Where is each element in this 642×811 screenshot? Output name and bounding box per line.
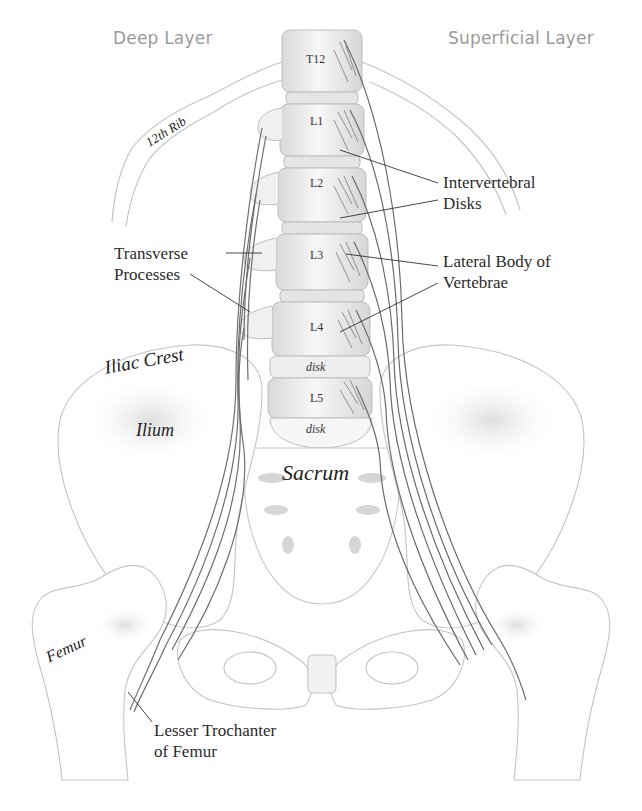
callout-trochanter-line1: Lesser Trochanter [154, 720, 276, 741]
vertebra-label-l5: L5 [310, 391, 323, 406]
femur-right [476, 565, 610, 780]
ilium-label: Ilium [136, 420, 174, 441]
disk-label-lower: disk [306, 422, 325, 437]
callout-lateral-line2: Vertebrae [443, 272, 551, 293]
disk-label-upper: disk [306, 360, 325, 375]
callout-transverse-line1: Transverse [114, 243, 188, 264]
vertebra-label-l4: L4 [310, 320, 323, 335]
anatomy-figure: Deep Layer Superficial Layer T12 L1 L2 L… [0, 0, 642, 811]
callout-transverse-line2: Processes [114, 264, 188, 285]
callout-intervertebral-line1: Intervertebral [443, 172, 536, 193]
callout-intervertebral-line2: Disks [443, 193, 536, 214]
vertebra-label-l1: L1 [310, 114, 323, 129]
pubis [178, 630, 465, 710]
vertebra-label-l2: L2 [310, 176, 323, 191]
deep-layer-heading: Deep Layer [113, 28, 213, 48]
superficial-layer-heading: Superficial Layer [448, 28, 594, 48]
callout-lateral-line1: Lateral Body of [443, 251, 551, 272]
callout-trochanter-line2: of Femur [154, 741, 276, 762]
callout-lesser-trochanter: Lesser Trochanter of Femur [154, 720, 276, 762]
callout-intervertebral-disks: Intervertebral Disks [443, 172, 536, 214]
callout-transverse-processes: Transverse Processes [114, 243, 188, 285]
sacrum-label: Sacrum [282, 460, 349, 486]
callout-lateral-body: Lateral Body of Vertebrae [443, 251, 551, 293]
vertebra-label-t12: T12 [306, 52, 325, 67]
vertebra-label-l3: L3 [310, 248, 323, 263]
